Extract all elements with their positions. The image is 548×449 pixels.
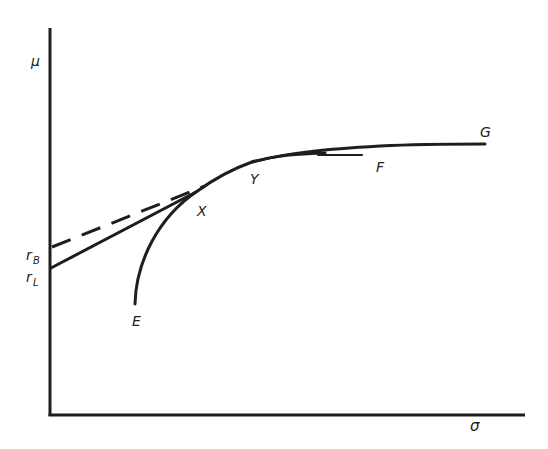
point-label-G: G [480, 124, 491, 140]
borrowing-rate-label: r B [26, 247, 40, 266]
lending-line [51, 192, 196, 268]
rb-sub: B [33, 255, 40, 266]
rl-sub: L [33, 277, 39, 288]
x-axis-label: σ [470, 417, 480, 435]
point-label-E: E [132, 313, 141, 329]
frontier-curve-EXYF [135, 153, 325, 304]
lending-rate-label: r L [26, 269, 39, 288]
rb-main: r [26, 247, 33, 263]
point-label-X: X [196, 203, 207, 219]
point-label-F: F [376, 159, 385, 175]
diagram-canvas: μ σ r B r L E X Y F G [0, 0, 548, 449]
rl-main: r [26, 269, 33, 285]
point-label-Y: Y [250, 171, 260, 187]
borrowing-line-dashed [52, 186, 205, 247]
frontier-curve-YG [252, 144, 485, 162]
y-axis-label: μ [30, 53, 40, 69]
